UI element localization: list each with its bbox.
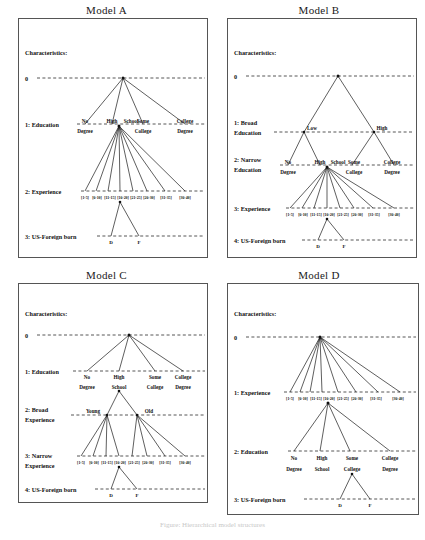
experience-bracket-0: [1-5] [286,397,294,401]
zero-label: 0 [25,332,28,339]
education-node-3-line1: College [382,455,399,461]
nativity-leaf-0: D [316,244,320,249]
education-node-2-line1: Some [346,455,359,461]
education-node-labels: No Degree High School Some College Colle… [286,455,399,472]
model-b-diagram: Characteristics: 0 1: Broad Education 2:… [228,19,414,255]
experience-bracket-1: [6-10] [298,397,308,401]
education-node-2-line2: College [135,128,152,134]
education-node-2-line2: College [344,466,361,472]
experience-selected-node [119,201,122,204]
education-node-1-line1: High [114,374,125,380]
education-node-1-line2: School [315,466,330,472]
row-label-nativity: 3: US-Foreign born [234,496,286,503]
experience-bracket-7: [36-40] [179,196,191,200]
edges-experience-to-nativity [111,467,137,489]
narrow-education-node-labels: No Degree High School Some College Colle… [280,159,401,175]
row-label-experience: 2: Experience [25,188,62,195]
experience-selected-node [326,218,329,221]
experience-bracket-2: [11-15] [310,213,321,217]
education-node-2-line2: College [346,169,363,175]
row-label-broad-experience-line2: Experience [25,416,55,423]
edges-education-to-experience [85,126,185,191]
education-node-0-line1: No [82,118,89,124]
experience-bracket-1: [6-10] [89,461,99,465]
education-node-0-line1: No [285,159,292,165]
model-c-diagram: Characteristics: 0 1: Education 2: Broad… [19,284,205,500]
characteristics-label: Characteristics: [234,49,276,56]
education-node-0-line1: No [84,374,91,380]
broad-experience-young-node [106,414,109,417]
experience-bracket-labels: [1-5] [6-10] [11-15] [16-20] [21-25] [26… [286,397,404,401]
edges-root-to-broad-education [304,76,374,132]
model-d-title: Model D [213,269,425,281]
figure-caption-area: Figure: Hierarchical model structures [0,517,425,540]
root-node [122,77,125,80]
nativity-leaf-0: D [109,240,113,245]
nativity-leaf-1: F [135,493,138,498]
root-node [337,75,340,78]
model-a-frame: Characteristics: 0 1: Education 2: Exper… [18,18,208,258]
row-label-education: 1: Education [25,368,59,375]
education-node-0-line1: No [291,455,298,461]
row-label-broad-education-line1: 1: Broad [234,119,258,126]
edges-experience-to-nativity [318,219,344,240]
education-node-0-line2: Degree [77,128,93,134]
panel-model-a: Model A Characteristics: 0 1: Education … [0,0,213,265]
characteristics-label: Characteristics: [25,310,67,317]
education-node-1-line1: High [317,455,328,461]
panel-model-c: Model C Characteristics: 0 1: Education … [0,265,213,517]
broad-experience-old-node [136,414,139,417]
experience-bracket-1: [6-10] [92,196,102,200]
education-node-2-line1: Some [348,159,361,165]
experience-bracket-2: [11-15] [104,196,115,200]
education-node-2-line2: College [147,384,164,390]
experience-bracket-7: [36-40] [388,213,400,217]
education-high-school-node [118,125,121,128]
education-node-3-line2: Degree [175,384,191,390]
experience-bracket-labels: [1-5] [6-10] [11-15] [16-20] [21-25] [26… [77,461,191,465]
panel-model-d: Model D Characteristics: 0 1: Experience… [213,265,425,517]
edges-education-to-broad-experience [107,391,137,415]
education-node-1-line1: High [315,159,326,165]
characteristics-label: Characteristics: [25,49,67,56]
education-node-1-line2: School [112,384,127,390]
experience-bracket-6: [31-35] [370,397,382,401]
row-label-narrow-experience-line2: Experience [25,462,55,469]
nativity-leaf-0: D [109,493,113,498]
model-a-diagram: Characteristics: 0 1: Education 2: Exper… [19,19,205,255]
experience-bracket-4: [21-25] [337,213,349,217]
education-node-2-line1: Some [137,118,150,124]
row-label-narrow-education-line2: Education [234,166,262,173]
experience-bracket-0: [1-5] [81,196,89,200]
experience-bracket-labels: [1-5] [6-10] [11-15] [16-20] [21-25] [26… [286,213,400,217]
experience-bracket-5: [26-30] [143,196,155,200]
nativity-leaf-1: F [342,244,345,249]
zero-label: 0 [25,75,28,82]
experience-bracket-1: [6-10] [298,213,308,217]
experience-bracket-5: [26-30] [142,461,154,465]
zero-label: 0 [234,73,237,80]
experience-bracket-3: [16-20] [323,397,335,401]
row-label-experience: 3: Experience [234,205,271,212]
figure-caption: Figure: Hierarchical model structures [0,521,425,529]
broad-experience-node-1: Old [145,408,153,414]
education-node-labels: No Degree High School Some College Colle… [79,374,192,390]
experience-bracket-4: [21-25] [128,461,140,465]
experience-bracket-2: [11-15] [101,461,112,465]
education-node-3-line1: College [177,118,194,124]
experience-bracket-0: [1-5] [286,213,294,217]
characteristics-label: Characteristics: [234,310,276,317]
row-label-nativity: 4: US-Foreign born [25,486,77,493]
education-node-3-line2: Degree [177,128,193,134]
education-node-0-line2: Degree [79,384,95,390]
education-node-2-line1: Some [149,374,162,380]
experience-selected-node [118,466,121,469]
education-node-0-line2: Degree [280,169,296,175]
model-d-diagram: Characteristics: 0 1: Experience 2: Educ… [228,284,416,512]
education-node-3-line1: College [384,159,401,165]
model-b-frame: Characteristics: 0 1: Broad Education 2:… [227,18,417,258]
experience-bracket-3: [16-20] [114,461,126,465]
broad-experience-node-0: Young [86,408,101,414]
nativity-leaf-0: D [338,503,342,508]
experience-bracket-2: [11-15] [310,397,321,401]
